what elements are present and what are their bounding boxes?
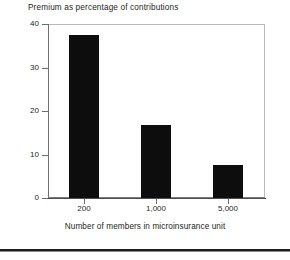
y-tick-label-wrap-0: 0	[20, 198, 39, 199]
y-tick-mark-20	[42, 111, 48, 112]
y-tick-label-40: 40	[20, 20, 39, 28]
y-axis-line	[48, 24, 49, 199]
y-tick-label-wrap-20: 20	[20, 111, 39, 112]
y-tick-label-0: 0	[20, 194, 39, 202]
y-tick-label-30: 30	[20, 64, 39, 72]
bottom-divider-shadow	[0, 251, 290, 252]
y-tick-label-wrap-30: 30	[20, 68, 39, 69]
y-tick-mark-30	[42, 68, 48, 69]
y-tick-mark-40	[42, 24, 48, 25]
bar-200	[69, 35, 99, 198]
y-tick-mark-10	[42, 155, 48, 156]
x-tick-label-0: 200	[77, 204, 90, 213]
x-axis-title: Number of members in microinsurance unit	[0, 222, 290, 231]
y-tick-label-wrap-40: 40	[20, 24, 39, 25]
bar-1000	[141, 125, 171, 198]
y-tick-label-10: 10	[20, 151, 39, 159]
x-tick-label-2: 5,000	[218, 204, 238, 213]
x-axis-line	[48, 198, 266, 199]
y-tick-mark-0	[42, 198, 48, 199]
chart-title: Premium as percentage of contributions	[28, 3, 178, 12]
bar-5000	[213, 165, 243, 198]
y-tick-label-wrap-10: 10	[20, 155, 39, 156]
x-tick-label-1: 1,000	[146, 204, 166, 213]
y-tick-label-20: 20	[20, 107, 39, 115]
chart-figure: Premium as percentage of contributions 0…	[0, 0, 290, 260]
